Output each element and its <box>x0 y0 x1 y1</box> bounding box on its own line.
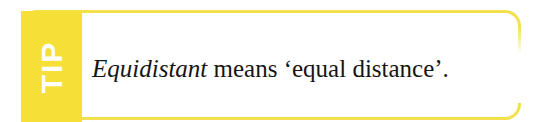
glossary-definition: means ‘equal distance’. <box>207 55 449 82</box>
glossary-term: Equidistant <box>92 55 207 82</box>
callout-body-text: Equidistant means ‘equal distance’. <box>92 53 522 84</box>
tip-callout: TIP Equidistant means ‘equal distance’. <box>0 0 540 122</box>
tip-tab-label: TIP <box>37 40 67 93</box>
tip-tab: TIP <box>21 11 82 122</box>
